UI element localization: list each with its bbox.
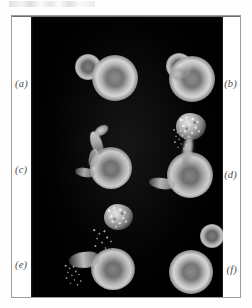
frame-d-ejected-clump bbox=[176, 113, 206, 140]
panel-label-c: (c) bbox=[15, 164, 27, 175]
frame-a-large-sphere bbox=[92, 55, 138, 101]
plate-edge-left bbox=[31, 16, 33, 297]
frame-c-neck bbox=[87, 148, 100, 167]
frame-e-remnant-arm bbox=[68, 250, 100, 269]
frame-b-small-sphere bbox=[166, 53, 192, 79]
frame-c-arm-hook bbox=[93, 123, 110, 139]
frame-c-main-blob bbox=[90, 147, 132, 189]
frame-c-lower-arm bbox=[74, 166, 95, 178]
frame-f-large-sphere bbox=[169, 250, 213, 294]
panel-label-d: (d) bbox=[224, 169, 237, 180]
figure-page: (a) (c) (e) (b) (d) (f) bbox=[0, 0, 252, 308]
plate-edge-right bbox=[221, 16, 223, 297]
frame-f-small-sphere bbox=[200, 224, 223, 248]
frame-a-small-sphere bbox=[75, 54, 101, 80]
frame-d-clump-grain bbox=[176, 113, 206, 140]
frame-e-debris-spray bbox=[91, 228, 119, 256]
frame-b-contact-bridge bbox=[171, 68, 185, 80]
frame-d-main-blob bbox=[167, 152, 213, 198]
panel-label-a: (a) bbox=[15, 78, 28, 89]
panel-label-b: (b) bbox=[224, 78, 237, 89]
frame-e-escaping-clump bbox=[104, 204, 133, 230]
frame-d-debris-spray bbox=[172, 128, 190, 150]
frame-e-remnant-blob bbox=[91, 248, 135, 290]
figure-frame: (a) (c) (e) (b) (d) (f) bbox=[11, 15, 241, 298]
frame-d-lower-arm bbox=[148, 176, 175, 191]
simulation-image-plate bbox=[31, 16, 223, 297]
frame-e-clump-grain bbox=[104, 204, 133, 230]
frame-e-trailing-spray bbox=[63, 264, 85, 286]
panel-label-f: (f) bbox=[226, 264, 237, 275]
panel-label-e: (e) bbox=[15, 259, 27, 270]
frame-b-large-sphere bbox=[169, 56, 215, 102]
scan-ghost-text bbox=[9, 1, 95, 7]
frame-c-tidal-arm bbox=[88, 130, 106, 156]
frame-d-connecting-neck bbox=[181, 135, 195, 166]
